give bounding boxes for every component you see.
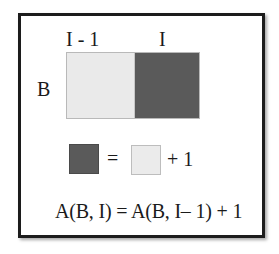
legend-dark-square [69,144,99,174]
plus-one-text: + 1 [167,149,193,169]
equals-sign: = [107,148,118,168]
cell-previous-light [67,53,135,118]
recurrence-formula: A(B, I) = A(B, I– 1) + 1 [55,200,242,222]
column-label-i: I [159,29,166,49]
dp-table-row [66,52,200,119]
legend-light-square [131,145,161,175]
column-label-i-minus-1: I - 1 [66,29,99,49]
row-label-b: B [37,79,50,99]
cell-current-dark [135,53,199,118]
diagram-frame: I - 1 I B = + 1 A(B, I) = A(B, I– 1) + 1 [18,13,265,238]
